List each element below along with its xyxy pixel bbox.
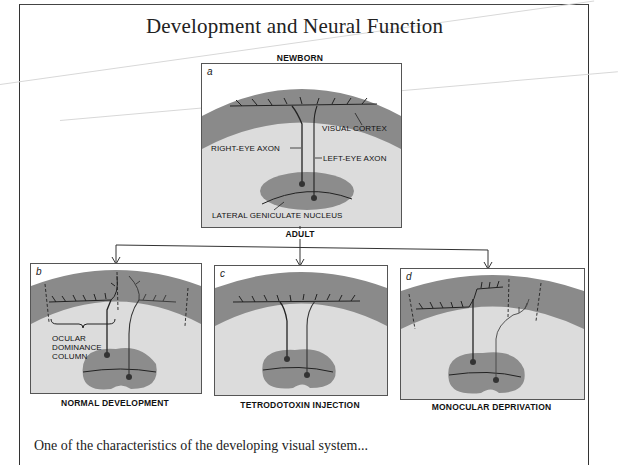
monocular-deprivation-diagram <box>401 269 584 399</box>
panel-letter-d: d <box>406 271 412 282</box>
caption-monocular-deprivation: MONOCULAR DEPRIVATION <box>400 402 583 412</box>
normal-development-diagram <box>31 264 201 393</box>
caption-normal-development: NORMAL DEVELOPMENT <box>30 398 200 408</box>
label-column: COLUMN <box>52 352 87 361</box>
label-ocular: OCULAR <box>52 334 86 343</box>
panel-letter-b: b <box>36 266 42 277</box>
figure-panel-b: b OCULAR DOMINANCE COLUMN <box>30 263 202 394</box>
figure-panel-d: d <box>400 268 585 400</box>
panel-letter-c: c <box>220 268 225 279</box>
caption-tetrodotoxin-injection: TETRODOTOXIN INJECTION <box>214 400 386 410</box>
figure-panel-c: c <box>214 265 388 396</box>
tetrodotoxin-diagram <box>215 266 387 395</box>
body-paragraph-partial: One of the characteristics of the develo… <box>34 438 368 454</box>
label-dominance: DOMINANCE <box>52 343 102 352</box>
